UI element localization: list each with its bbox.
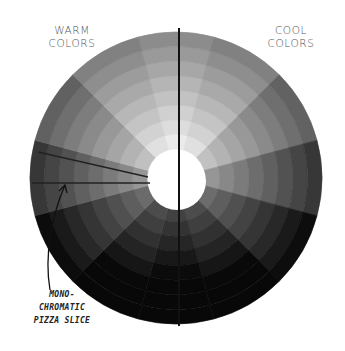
cool-label-line2: COLORS: [265, 37, 317, 50]
wheel-cell: [218, 163, 234, 193]
wheel-cell: [153, 248, 198, 265]
wheel-cell: [161, 120, 191, 136]
wheel-cell: [232, 159, 249, 197]
wheel-cell: [118, 163, 134, 193]
warm-colors-label: WARM COLORS: [46, 24, 98, 50]
wheel-cell: [246, 155, 263, 200]
warm-label-line2: COLORS: [46, 37, 98, 50]
annotation-line3: PIZZA SLICE: [22, 314, 102, 327]
cool-colors-label: COOL COLORS: [265, 24, 317, 50]
cool-label-line1: COOL: [265, 24, 317, 37]
annotation-line1: MONO-: [22, 288, 102, 301]
warm-label-line1: WARM: [46, 24, 98, 37]
monochromatic-slice-annotation: MONO- CHROMATIC PIZZA SLICE: [22, 288, 102, 327]
wheel-cell: [161, 220, 191, 236]
wheel-cell: [89, 155, 106, 200]
annotation-line2: CHROMATIC: [22, 301, 102, 314]
wheel-cell: [103, 159, 120, 197]
center-hole: [148, 152, 206, 210]
wheel-cell: [157, 105, 195, 122]
wheel-cell: [153, 90, 198, 107]
wheel-cell: [157, 234, 195, 251]
